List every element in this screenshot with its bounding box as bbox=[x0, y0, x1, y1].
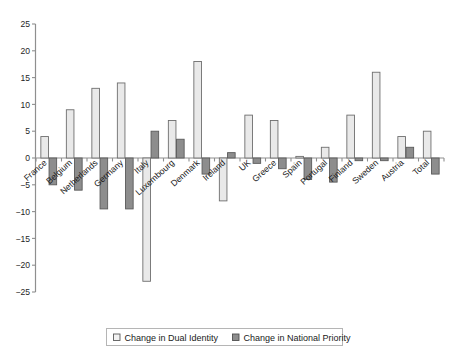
y-axis-tick-label: −20 bbox=[15, 260, 30, 270]
bar-dual-identity-france bbox=[41, 137, 49, 158]
legend-swatch-dual-identity bbox=[114, 334, 121, 341]
y-axis-tick-label: −25 bbox=[15, 287, 30, 297]
bar-dual-identity-sweden bbox=[372, 72, 380, 158]
y-axis-tick-label: −10 bbox=[15, 207, 30, 217]
x-axis-category-label: Sweden bbox=[350, 157, 380, 186]
bar-dual-identity-luxembourg bbox=[168, 120, 176, 158]
x-axis-category-label: UK bbox=[237, 157, 253, 173]
bar-dual-identity-total bbox=[423, 131, 431, 158]
bar-dual-identity-portugal bbox=[321, 147, 329, 158]
y-axis-tick-label: 5 bbox=[25, 126, 30, 136]
bar-national-priority-total bbox=[432, 158, 440, 174]
x-axis-category-label: Germany bbox=[92, 157, 126, 189]
legend-label-national-priority: Change in National Priority bbox=[244, 333, 352, 343]
y-axis-tick-label: 0 bbox=[25, 153, 30, 163]
bar-dual-identity-belgium bbox=[66, 110, 74, 158]
chart-container: 2520151050−5−10−15−20−25 FranceBelgiumNe… bbox=[0, 0, 449, 351]
bar-dual-identity-germany bbox=[117, 83, 125, 158]
chart-legend: Change in Dual IdentityChange in Nationa… bbox=[107, 329, 352, 346]
bars-group bbox=[41, 62, 439, 282]
bar-national-priority-luxembourg bbox=[177, 139, 185, 158]
x-axis-category-label: Total bbox=[411, 158, 431, 178]
bar-dual-identity-finland bbox=[347, 115, 355, 158]
bar-chart-svg: 2520151050−5−10−15−20−25 FranceBelgiumNe… bbox=[0, 0, 449, 351]
y-axis-tick-label: 25 bbox=[20, 19, 30, 29]
bar-dual-identity-greece bbox=[270, 120, 278, 158]
y-axis-tick-label: 10 bbox=[20, 100, 30, 110]
x-axis-category-label: Portugal bbox=[298, 158, 329, 187]
y-axis-tick-label: −15 bbox=[15, 234, 30, 244]
y-axis: 2520151050−5−10−15−20−25 bbox=[15, 19, 35, 297]
bar-national-priority-austria bbox=[406, 147, 414, 158]
bar-national-priority-sweden bbox=[381, 158, 389, 161]
bar-dual-identity-uk bbox=[245, 115, 253, 158]
bar-dual-identity-austria bbox=[398, 137, 406, 158]
bar-national-priority-italy bbox=[151, 131, 159, 158]
legend-label-dual-identity: Change in Dual Identity bbox=[125, 333, 219, 343]
y-axis-tick-label: 15 bbox=[20, 73, 30, 83]
bar-dual-identity-denmark bbox=[194, 62, 202, 158]
bar-national-priority-finland bbox=[355, 158, 363, 161]
y-axis-tick-label: 20 bbox=[20, 46, 30, 56]
bar-national-priority-ireland bbox=[228, 153, 236, 158]
bar-national-priority-germany bbox=[126, 158, 134, 209]
x-axis-category-label: Denmark bbox=[169, 157, 202, 188]
x-axis-category-label: Austria bbox=[379, 157, 406, 183]
legend-swatch-national-priority bbox=[233, 334, 240, 341]
bar-national-priority-uk bbox=[253, 158, 261, 163]
bar-dual-identity-netherlands bbox=[92, 88, 100, 158]
